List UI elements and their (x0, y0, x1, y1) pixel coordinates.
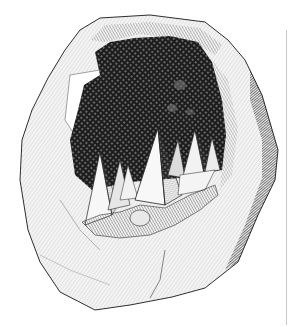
geode-engraving (0, 0, 288, 327)
scan-edge-line (286, 30, 287, 325)
